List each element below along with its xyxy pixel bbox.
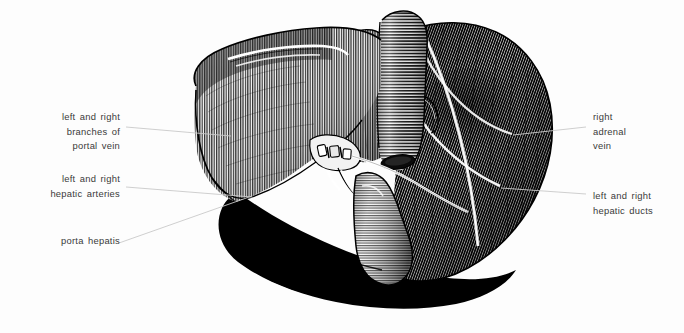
- label-portal-vein-line-2: branches of: [36, 125, 120, 140]
- portal-vein-stump: [317, 144, 327, 156]
- label-hepatic-arteries-line-1: left and right: [33, 172, 120, 187]
- label-portal-vein: left and right branches of portal vein: [36, 110, 120, 154]
- label-hepatic-ducts-line-1: left and right: [593, 189, 683, 204]
- hepatic-duct-stump: [343, 149, 352, 160]
- hepatic-artery-stump: [329, 146, 339, 158]
- label-hepatic-arteries-line-2: hepatic arteries: [33, 187, 120, 202]
- label-hepatic-ducts-line-2: hepatic ducts: [593, 204, 683, 219]
- label-hepatic-arteries: left and right hepatic arteries: [33, 172, 120, 201]
- label-portal-vein-line-1: left and right: [36, 110, 120, 125]
- label-portal-vein-line-3: portal vein: [36, 139, 120, 154]
- label-adrenal-vein-line-3: vein: [593, 139, 683, 154]
- liver-illustration: [0, 0, 684, 333]
- anatomical-figure: left and right branches of portal vein l…: [0, 0, 684, 333]
- label-adrenal-vein: right adrenal vein: [593, 110, 683, 154]
- label-porta-hepatis-line-1: porta hepatis: [42, 234, 120, 249]
- label-porta-hepatis: porta hepatis: [42, 234, 120, 249]
- label-adrenal-vein-line-1: right: [593, 110, 683, 125]
- label-adrenal-vein-line-2: adrenal: [593, 125, 683, 140]
- label-hepatic-ducts: left and right hepatic ducts: [593, 189, 683, 218]
